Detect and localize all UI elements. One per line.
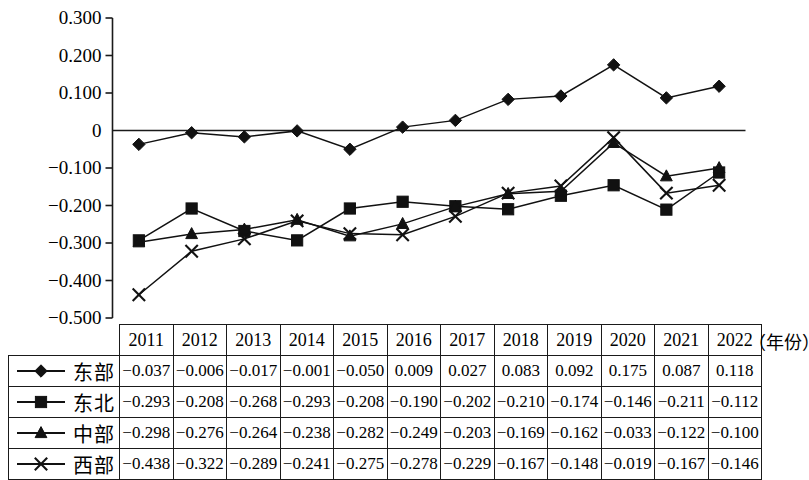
y-axis-tick-label: −0.300: [10, 233, 102, 252]
y-axis-tick-label: −0.200: [10, 196, 102, 215]
series-line: [139, 65, 719, 149]
table-value-cell: −0.037: [120, 356, 174, 387]
table-value-cell: −0.293: [280, 387, 334, 418]
legend-marker: [15, 423, 67, 443]
table-year-header: 2017: [441, 325, 495, 356]
table-value-cell: 0.087: [655, 356, 709, 387]
table-value-cell: −0.050: [334, 356, 388, 387]
table-value-cell: −0.208: [173, 387, 227, 418]
table-value-cell: −0.268: [227, 387, 281, 418]
table-value-cell: −0.202: [441, 387, 495, 418]
table-value-cell: −0.146: [601, 387, 655, 418]
table-value-cell: −0.001: [280, 356, 334, 387]
table-value-cell: −0.278: [387, 449, 441, 480]
table-year-header: 2013: [227, 325, 281, 356]
table-value-cell: −0.293: [120, 387, 174, 418]
data-point-marker: [344, 143, 356, 155]
table-row: 西部−0.438−0.322−0.289−0.241−0.275−0.278−0…: [9, 449, 762, 480]
table-row: 东部−0.037−0.006−0.017−0.001−0.0500.0090.0…: [9, 356, 762, 387]
table-year-header: 2021: [655, 325, 709, 356]
table-value-cell: −0.019: [601, 449, 655, 480]
legend-series-label: 中部: [73, 419, 115, 448]
table-value-cell: 0.175: [601, 356, 655, 387]
data-point-marker: [555, 90, 567, 102]
table-year-header: 2019: [548, 325, 602, 356]
table-value-cell: −0.190: [387, 387, 441, 418]
legend-marker-shape: [35, 365, 47, 377]
table-value-cell: −0.100: [708, 418, 762, 449]
table-value-cell: −0.122: [655, 418, 709, 449]
table-value-cell: −0.238: [280, 418, 334, 449]
table-year-header: 2014: [280, 325, 334, 356]
legend-cell-东北: 东北: [9, 387, 120, 418]
data-point-marker: [133, 138, 145, 150]
table-value-cell: −0.289: [227, 449, 281, 480]
table-value-cell: −0.208: [334, 387, 388, 418]
y-axis-tick-label: −0.100: [10, 158, 102, 177]
data-point-marker: [713, 80, 725, 92]
data-point-marker: [660, 92, 672, 104]
table-value-cell: −0.322: [173, 449, 227, 480]
table-value-cell: −0.249: [387, 418, 441, 449]
legend-marker-square-icon: [15, 392, 67, 412]
table-row: 中部−0.298−0.276−0.264−0.238−0.282−0.249−0…: [9, 418, 762, 449]
legend-marker-triangle-icon: [15, 423, 67, 443]
series-line: [139, 138, 719, 295]
legend-marker-cross-icon: [15, 454, 67, 474]
plot-svg: [0, 0, 809, 330]
data-point-marker: [661, 204, 672, 215]
table-value-cell: −0.167: [494, 449, 548, 480]
table-header-row: 2011201220132014201520162017201820192020…: [9, 325, 762, 356]
data-point-marker: [449, 114, 461, 126]
y-axis-tick-label: 0.100: [10, 83, 102, 102]
table-value-cell: 0.083: [494, 356, 548, 387]
legend-marker: [15, 361, 67, 381]
legend-series-label: 东北: [73, 388, 115, 417]
series-line: [139, 173, 719, 241]
table-value-cell: −0.006: [173, 356, 227, 387]
y-axis-tick-label: 0.200: [10, 46, 102, 65]
table-value-cell: 0.009: [387, 356, 441, 387]
table-corner-cell: [9, 325, 120, 356]
table-value-cell: −0.169: [494, 418, 548, 449]
table-value-cell: 0.092: [548, 356, 602, 387]
data-point-marker: [502, 93, 514, 105]
table-year-header: 2015: [334, 325, 388, 356]
table-value-cell: −0.174: [548, 387, 602, 418]
table-value-cell: 0.118: [708, 356, 762, 387]
data-point-marker: [185, 127, 197, 139]
table-value-cell: −0.167: [655, 449, 709, 480]
table-value-cell: −0.229: [441, 449, 495, 480]
data-point-marker: [344, 203, 355, 214]
data-point-marker: [503, 204, 514, 215]
data-table: 2011201220132014201520162017201820192020…: [8, 324, 762, 480]
table-value-cell: −0.276: [173, 418, 227, 449]
table-value-cell: 0.027: [441, 356, 495, 387]
data-point-marker: [238, 131, 250, 143]
legend-marker-diamond-icon: [15, 361, 67, 381]
table-value-cell: −0.162: [548, 418, 602, 449]
table-value-cell: −0.282: [334, 418, 388, 449]
legend-cell-中部: 中部: [9, 418, 120, 449]
table-value-cell: −0.146: [708, 449, 762, 480]
series-东部: [133, 59, 726, 156]
y-axis-tick-label: −0.400: [10, 271, 102, 290]
y-axis-tick-label: 0: [10, 121, 102, 140]
table-value-cell: −0.264: [227, 418, 281, 449]
data-point-marker: [292, 235, 303, 246]
table-value-cell: −0.112: [708, 387, 762, 418]
table-row: 东北−0.293−0.208−0.268−0.293−0.208−0.190−0…: [9, 387, 762, 418]
data-point-marker: [397, 196, 408, 207]
x-axis-unit-label: （年份）: [748, 328, 809, 354]
table-value-cell: −0.033: [601, 418, 655, 449]
data-point-marker: [291, 125, 303, 137]
data-point-marker: [396, 121, 408, 133]
legend-marker: [15, 454, 67, 474]
table-value-cell: −0.275: [334, 449, 388, 480]
legend-cell-西部: 西部: [9, 449, 120, 480]
legend-marker: [15, 392, 67, 412]
table-value-cell: −0.210: [494, 387, 548, 418]
table-value-cell: −0.211: [655, 387, 709, 418]
data-point-marker: [186, 203, 197, 214]
table-year-header: 2018: [494, 325, 548, 356]
